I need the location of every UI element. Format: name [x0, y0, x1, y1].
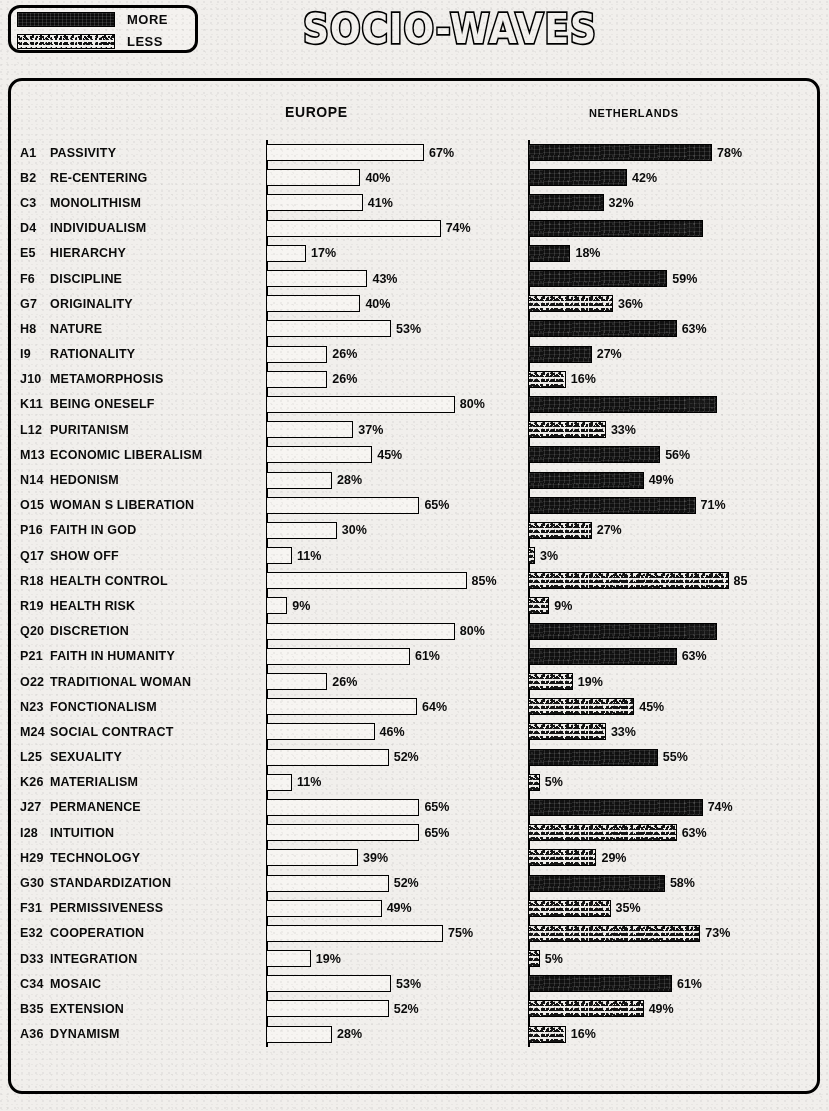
chart-row: H29TECHNOLOGY39%29% — [14, 845, 814, 870]
europe-value-label: 37% — [358, 423, 383, 437]
chart-row: C3MONOLITHISM41%32% — [14, 190, 814, 215]
row-name: SEXUALITY — [50, 750, 122, 764]
row-code: E32 — [20, 926, 50, 940]
row-code: I9 — [20, 347, 50, 361]
netherlands-bar — [528, 472, 644, 489]
row-code: I28 — [20, 826, 50, 840]
row-code: H29 — [20, 851, 50, 865]
europe-value-label: 17% — [311, 246, 336, 260]
netherlands-bar — [528, 320, 677, 337]
row-label: N23FONCTIONALISM — [14, 700, 266, 714]
chart-row: Q20DISCRETION80%80% — [14, 619, 814, 644]
row-label: L25SEXUALITY — [14, 750, 266, 764]
europe-bar — [266, 446, 372, 463]
row-code: L25 — [20, 750, 50, 764]
europe-bar-track: 80% — [266, 392, 528, 417]
legend: MORE LESS — [8, 5, 198, 53]
europe-value-label: 19% — [316, 952, 341, 966]
netherlands-bar-track: 59% — [528, 266, 798, 291]
chart-row: G7ORIGINALITY40%36% — [14, 291, 814, 316]
netherlands-bar-track: 80% — [528, 619, 798, 644]
europe-bar — [266, 648, 410, 665]
europe-value-label: 39% — [363, 851, 388, 865]
row-name: HEALTH RISK — [50, 599, 135, 613]
netherlands-bar-track: 33% — [528, 417, 798, 442]
netherlands-bar — [528, 295, 613, 312]
europe-bar — [266, 144, 424, 161]
chart-row: E5HIERARCHY17%18% — [14, 241, 814, 266]
row-code: B35 — [20, 1002, 50, 1016]
europe-bar-track: 61% — [266, 644, 528, 669]
netherlands-bar — [528, 1026, 566, 1043]
europe-bar-track: 37% — [266, 417, 528, 442]
europe-bar-track: 74% — [266, 216, 528, 241]
row-code: D4 — [20, 221, 50, 235]
row-label: P21FAITH IN HUMANITY — [14, 649, 266, 663]
row-code: R18 — [20, 574, 50, 588]
row-label: B2RE-CENTERING — [14, 171, 266, 185]
netherlands-bar — [528, 925, 700, 942]
netherlands-value-label: 71% — [701, 498, 726, 512]
netherlands-value-label: 63% — [682, 649, 707, 663]
row-name: HIERARCHY — [50, 246, 126, 260]
europe-bar — [266, 295, 360, 312]
netherlands-value-label: 45% — [639, 700, 664, 714]
europe-bar-track: 45% — [266, 442, 528, 467]
row-name: MATERIALISM — [50, 775, 138, 789]
netherlands-bar-track: 63% — [528, 644, 798, 669]
netherlands-bar-track: 9% — [528, 593, 798, 618]
chart-row: A36DYNAMISM28%16% — [14, 1022, 814, 1047]
row-code: K26 — [20, 775, 50, 789]
chart-row: N14HEDONISM28%49% — [14, 467, 814, 492]
row-label: G30STANDARDIZATION — [14, 876, 266, 890]
europe-bar-track: 26% — [266, 367, 528, 392]
row-code: A1 — [20, 146, 50, 160]
europe-bar-track: 65% — [266, 820, 528, 845]
europe-bar-track: 19% — [266, 946, 528, 971]
row-label: A36DYNAMISM — [14, 1027, 266, 1041]
netherlands-bar — [528, 346, 592, 363]
netherlands-bar — [528, 245, 570, 262]
netherlands-bar — [528, 698, 634, 715]
netherlands-bar-track: 16% — [528, 1022, 798, 1047]
europe-bar-track: 80% — [266, 619, 528, 644]
netherlands-bar — [528, 849, 596, 866]
europe-bar — [266, 572, 467, 589]
europe-bar — [266, 875, 389, 892]
chart-row: K11BEING ONESELF80%80% — [14, 392, 814, 417]
chart-row: J27PERMANENCE65%74% — [14, 795, 814, 820]
chart-row: M24SOCIAL CONTRACT46%33% — [14, 719, 814, 744]
chart-row: R18HEALTH CONTROL85%85 — [14, 568, 814, 593]
europe-value-label: 74% — [446, 221, 471, 235]
netherlands-bar — [528, 648, 677, 665]
netherlands-bar — [528, 774, 540, 791]
europe-value-label: 41% — [368, 196, 393, 210]
europe-value-label: 26% — [332, 372, 357, 386]
row-name: INTUITION — [50, 826, 114, 840]
row-code: F31 — [20, 901, 50, 915]
page-title: SOCIO-WAVES — [300, 6, 600, 52]
row-label: I28INTUITION — [14, 826, 266, 840]
netherlands-value-label: 55% — [663, 750, 688, 764]
netherlands-value-label: 5% — [545, 775, 563, 789]
row-name: HEALTH CONTROL — [50, 574, 168, 588]
legend-swatch-more-icon — [17, 12, 115, 27]
europe-value-label: 49% — [387, 901, 412, 915]
europe-bar — [266, 597, 287, 614]
row-name: FAITH IN HUMANITY — [50, 649, 175, 663]
chart-row: J10METAMORPHOSIS26%16% — [14, 367, 814, 392]
netherlands-bar-track: 63% — [528, 820, 798, 845]
europe-bar — [266, 925, 443, 942]
legend-swatch-less-icon — [17, 34, 115, 49]
row-code: P21 — [20, 649, 50, 663]
netherlands-bar — [528, 900, 611, 917]
chart-row: F6DISCIPLINE43%59% — [14, 266, 814, 291]
europe-value-label: 64% — [422, 700, 447, 714]
netherlands-value-label: 16% — [571, 1027, 596, 1041]
europe-bar-track: 52% — [266, 996, 528, 1021]
row-label: C34MOSAIC — [14, 977, 266, 991]
row-code: E5 — [20, 246, 50, 260]
netherlands-value-label: 27% — [597, 347, 622, 361]
row-label: O22TRADITIONAL WOMAN — [14, 675, 266, 689]
europe-bar-track: 75% — [266, 921, 528, 946]
